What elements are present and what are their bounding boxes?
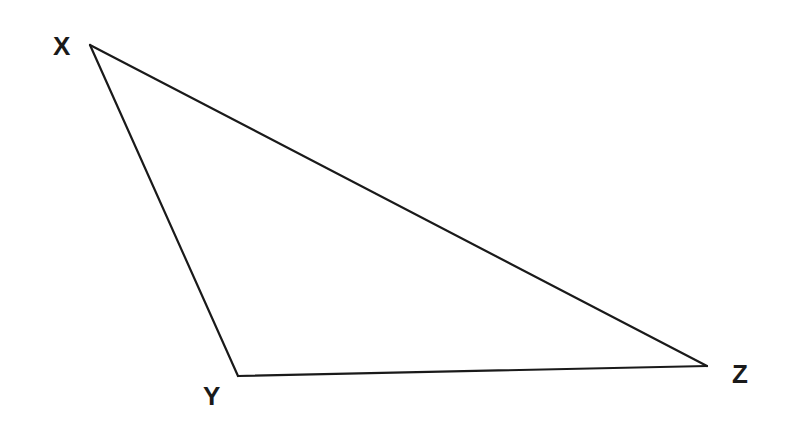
side-xy [90, 45, 238, 376]
triangle-diagram [0, 0, 785, 426]
vertex-label-x: X [53, 33, 70, 59]
side-xz [90, 45, 707, 366]
vertex-label-z: Z [732, 361, 748, 387]
side-yz [238, 366, 707, 376]
vertex-label-y: Y [203, 383, 220, 409]
